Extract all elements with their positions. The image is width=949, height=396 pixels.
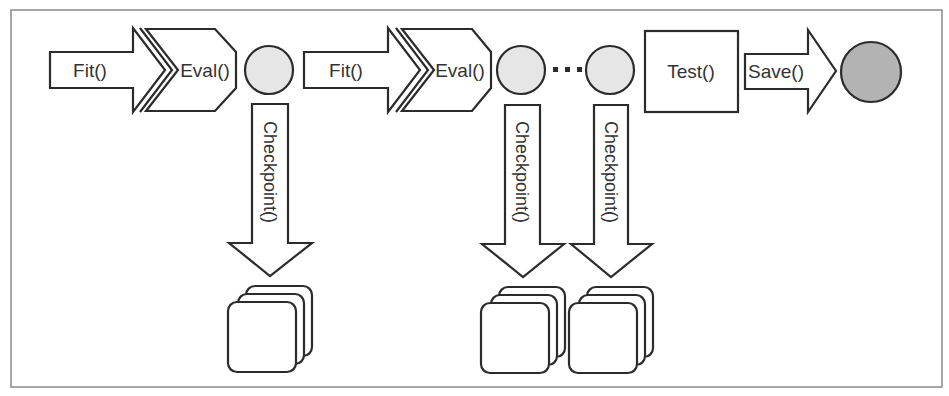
fit-label-2: Fit() [329,60,363,81]
checkpoint-label-1: Checkpoint() [260,121,280,223]
right-arrow-icon [50,28,165,112]
checkpoint-step-3: Checkpoint() [571,105,652,277]
ellipsis-icon [553,67,582,72]
checkpoint-label-3: Checkpoint() [601,121,621,223]
test-step: Test() [645,31,738,112]
fit-step-1: Fit() [50,28,165,112]
checkpoint-file-stack-2 [481,287,565,373]
checkpoint-step-2: Checkpoint() [482,105,564,277]
test-label: Test() [667,61,715,82]
save-step: Save() [745,30,836,112]
training-checkpoint-diagram: Fit() Eval() Checkpoint() Fit() Eval() [0,0,949,396]
checkpoint-card-icon [481,303,549,373]
fit-step-2: Fit() [304,28,420,112]
checkpoint-label-2: Checkpoint() [512,121,532,223]
fit-label-1: Fit() [73,60,107,81]
checkpoint-state-circle-1 [245,46,293,94]
checkpoint-file-stack-3 [569,287,653,373]
checkpoint-state-circle-2 [497,46,545,94]
checkpoint-card-icon [569,303,637,373]
checkpoint-state-circle-3 [586,46,634,94]
saved-model-circle [841,42,901,102]
eval-label-1: Eval() [180,60,230,81]
checkpoint-step-1: Checkpoint() [229,104,312,276]
eval-label-2: Eval() [435,60,485,81]
save-label: Save() [748,61,804,82]
checkpoint-file-stack-1 [228,286,312,372]
checkpoint-card-icon [228,302,296,372]
